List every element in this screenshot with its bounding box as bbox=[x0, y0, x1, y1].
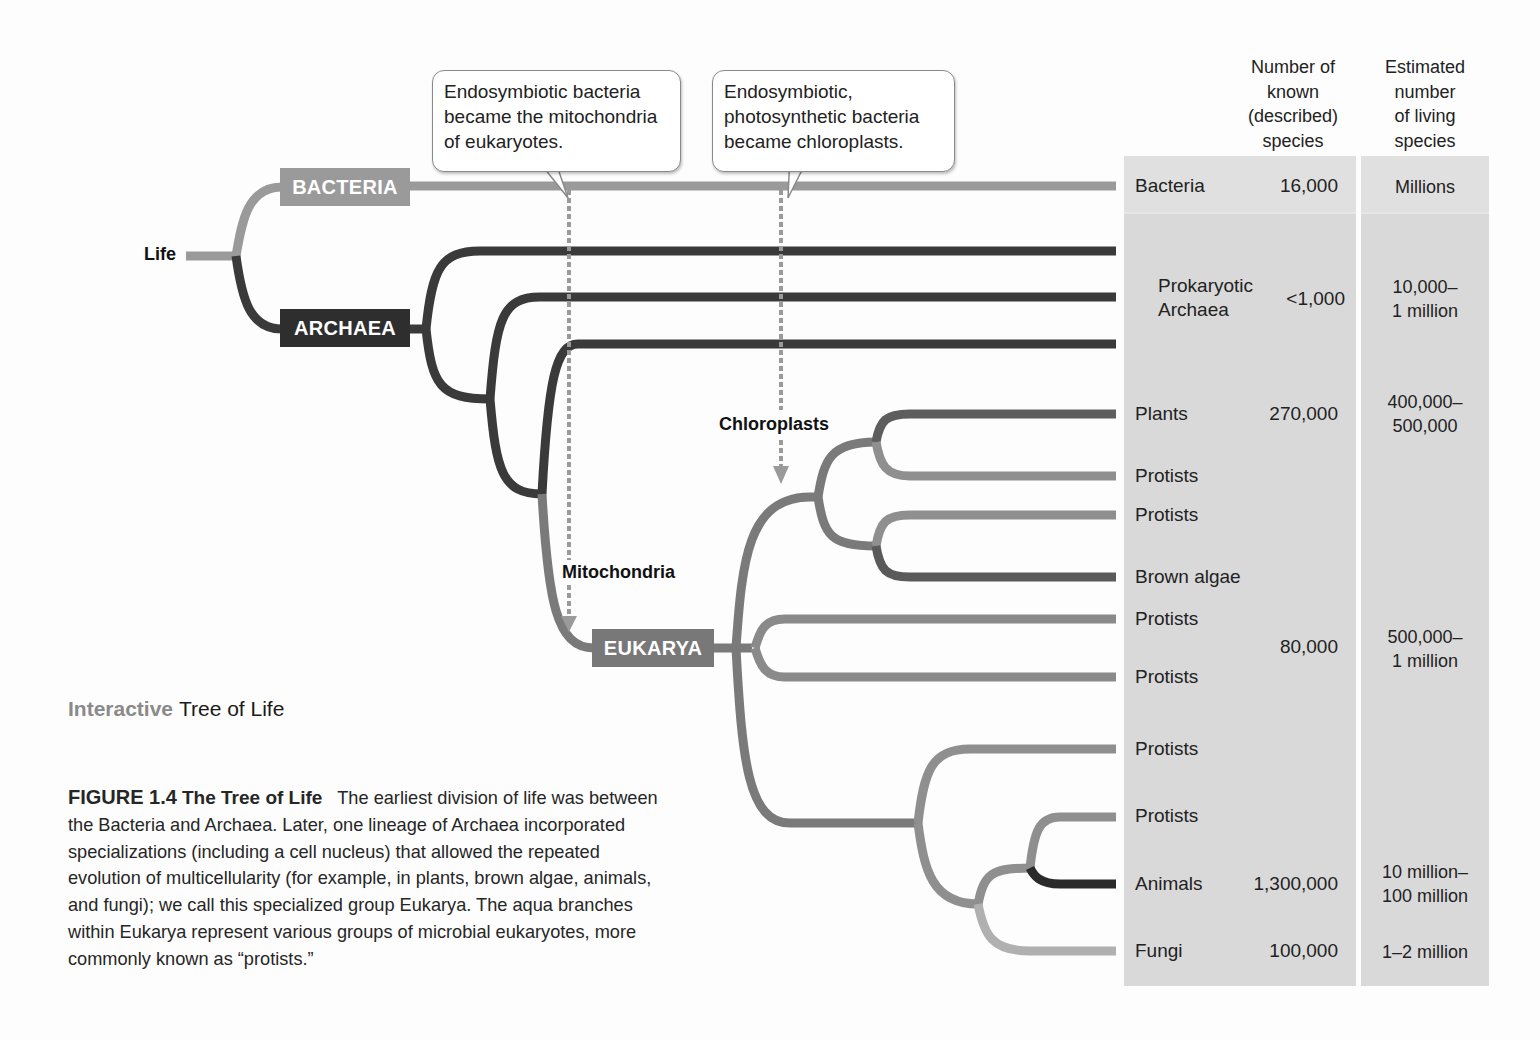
header-known-line-1: Number of bbox=[1228, 55, 1358, 80]
figure-caption-body: The earliest division of life was betwee… bbox=[68, 788, 658, 969]
est-plants-line-2: 500,000 bbox=[1361, 414, 1489, 438]
callout-chloro-line-2: photosynthetic bacteria bbox=[724, 104, 944, 129]
header-est-line-4: species bbox=[1361, 129, 1489, 154]
leaf-bacteria: Bacteria bbox=[1135, 175, 1205, 197]
leaf-plants: Plants bbox=[1135, 403, 1188, 425]
branch-brown-algae bbox=[876, 546, 1116, 577]
clade-bacteria[interactable]: BACTERIA bbox=[280, 168, 410, 206]
table-separator-archaea bbox=[1124, 212, 1489, 214]
est-fungi-line-1: 1–2 million bbox=[1361, 940, 1489, 964]
known-protists: 80,000 bbox=[1280, 636, 1338, 658]
branch-archaea-1 bbox=[426, 251, 1116, 329]
interactive-prefix: Interactive bbox=[68, 697, 173, 720]
header-known-line-3: (described) bbox=[1228, 104, 1358, 129]
leaf-protists-4: Protists bbox=[1135, 666, 1198, 688]
est-fungi: 1–2 million bbox=[1361, 940, 1489, 964]
branch-upper-b1 bbox=[818, 442, 876, 497]
leaf-brown-algae: Brown algae bbox=[1135, 566, 1241, 588]
header-known-line-2: known bbox=[1228, 80, 1358, 105]
branch-fungi bbox=[978, 904, 1116, 951]
figure-title: The Tree of Life bbox=[182, 787, 322, 808]
est-protists-line-2: 1 million bbox=[1361, 649, 1489, 673]
est-protists: 500,000– 1 million bbox=[1361, 625, 1489, 673]
header-est-line-3: of living bbox=[1361, 104, 1489, 129]
figure-number: FIGURE 1.4 bbox=[68, 786, 177, 808]
branch-archaea-node2 bbox=[426, 329, 490, 399]
clade-eukarya[interactable]: EUKARYA bbox=[592, 629, 714, 667]
callout-mito-line-1: Endosymbiotic bacteria bbox=[444, 79, 670, 104]
callout-mito-line-2: became the mitochondria bbox=[444, 104, 670, 129]
callout-chloro-line-3: became chloroplasts. bbox=[724, 129, 944, 154]
leaf-protists-2: Protists bbox=[1135, 504, 1198, 526]
clade-archaea[interactable]: ARCHAEA bbox=[280, 309, 410, 347]
known-plants: 270,000 bbox=[1269, 403, 1338, 425]
leaf-fungi: Fungi bbox=[1135, 940, 1183, 962]
est-bacteria: Millions bbox=[1361, 175, 1489, 199]
branch-upper-b2 bbox=[818, 497, 876, 546]
branch-to-archaea bbox=[236, 256, 282, 329]
est-plants: 400,000– 500,000 bbox=[1361, 390, 1489, 438]
leaf-protists-5: Protists bbox=[1135, 738, 1198, 760]
branch-archaea-node3 bbox=[490, 399, 542, 494]
branch-protists-1 bbox=[876, 442, 1116, 476]
est-plants-line-1: 400,000– bbox=[1361, 390, 1489, 414]
callout-chloro-line-1: Endosymbiotic, bbox=[724, 79, 944, 104]
known-archaea: <1,000 bbox=[1286, 288, 1345, 310]
header-est-line-2: number bbox=[1361, 80, 1489, 105]
header-est-line-1: Estimated bbox=[1361, 55, 1489, 80]
est-archaea: 10,000– 1 million bbox=[1361, 275, 1489, 323]
interactive-tree-link[interactable]: Interactive Tree of Life bbox=[68, 697, 284, 721]
known-fungi: 100,000 bbox=[1269, 940, 1338, 962]
leaf-protists-3: Protists bbox=[1135, 608, 1198, 630]
leaf-animals: Animals bbox=[1135, 873, 1203, 895]
figure-caption: FIGURE 1.4 The Tree of Life The earliest… bbox=[68, 784, 668, 973]
callout-mito-line-3: of eukaryotes. bbox=[444, 129, 670, 154]
branch-animals bbox=[1030, 868, 1116, 884]
est-archaea-line-2: 1 million bbox=[1361, 299, 1489, 323]
leaf-archaea: Archaea bbox=[1158, 299, 1229, 321]
branch-protists-8 bbox=[1030, 817, 1116, 868]
branch-lower-d-up bbox=[978, 868, 1030, 904]
interactive-title-text: Tree of Life bbox=[179, 697, 284, 720]
branch-protists-5 bbox=[755, 619, 1116, 648]
leaf-prokaryotic: Prokaryotic bbox=[1158, 275, 1253, 297]
chloroplasts-arrowhead bbox=[773, 466, 789, 484]
est-archaea-line-1: 10,000– bbox=[1361, 275, 1489, 299]
branch-to-bacteria bbox=[236, 187, 282, 256]
header-known-species: Number of known (described) species bbox=[1228, 55, 1358, 153]
header-known-line-4: species bbox=[1228, 129, 1358, 154]
leaf-protists-6: Protists bbox=[1135, 805, 1198, 827]
leaf-protists-1: Protists bbox=[1135, 465, 1198, 487]
branch-lower-c bbox=[918, 823, 978, 904]
known-bacteria: 16,000 bbox=[1280, 175, 1338, 197]
est-animals: 10 million– 100 million bbox=[1361, 860, 1489, 908]
callout-chloroplasts: Endosymbiotic, photosynthetic bacteria b… bbox=[712, 70, 955, 172]
root-label-life: Life bbox=[144, 244, 176, 265]
est-animals-line-2: 100 million bbox=[1361, 884, 1489, 908]
est-bacteria-line-1: Millions bbox=[1361, 175, 1489, 199]
branch-protists-7 bbox=[918, 749, 1116, 823]
header-estimated-species: Estimated number of living species bbox=[1361, 55, 1489, 153]
est-animals-line-1: 10 million– bbox=[1361, 860, 1489, 884]
branch-protists-6 bbox=[755, 648, 1116, 677]
branch-plants bbox=[876, 414, 1116, 442]
known-animals: 1,300,000 bbox=[1253, 873, 1338, 895]
branch-protists-2 bbox=[876, 515, 1116, 546]
event-label-mitochondria: Mitochondria bbox=[562, 562, 675, 583]
est-protists-line-1: 500,000– bbox=[1361, 625, 1489, 649]
callout-mitochondria: Endosymbiotic bacteria became the mitoch… bbox=[432, 70, 681, 172]
event-label-chloroplasts: Chloroplasts bbox=[719, 414, 829, 435]
